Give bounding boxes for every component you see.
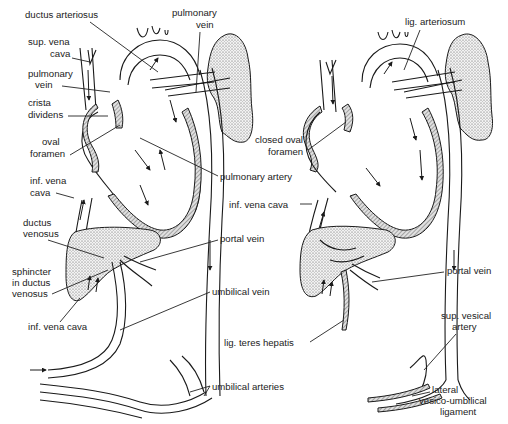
label-oval-foramen: oval [42, 136, 60, 147]
label-oval-foramen: foramen [30, 148, 65, 159]
circulation-diagram: ductus arteriosus pulmonary vein sup. ve… [0, 0, 508, 424]
heart-wall-right [83, 104, 99, 172]
label-ductus-arteriosus: ductus arteriosus [25, 9, 98, 20]
label-lig-teres-hepatis: lig. teres hepatis [224, 337, 294, 348]
label-sup-vena-cava: cava [50, 48, 71, 59]
label-ductus-venosus: venosus [23, 228, 59, 239]
label-inf-vena-cava: inf. vena [30, 175, 67, 186]
label-sup-vesical-artery: artery [452, 321, 477, 332]
label-closed-oval-foramen: closed oval [255, 134, 303, 145]
label-umbilical-arteries: umbilical arteries [212, 381, 284, 392]
label-pulmonary-vein: pulmonary [28, 68, 73, 79]
label-lateral-ligament: ligament [440, 406, 477, 417]
adult-circulation-panel [300, 30, 493, 412]
label-umbilical-vein: umbilical vein [212, 286, 270, 297]
label-pulmonary-vein: vein [35, 79, 53, 90]
lung-shape-adult [445, 34, 492, 140]
label-sphincter: sphincter [12, 266, 52, 277]
labels: ductus arteriosus pulmonary vein sup. ve… [12, 7, 491, 417]
fetal-circulation-panel [30, 26, 253, 418]
septum-adult [342, 104, 353, 132]
label-portal-vein: portal vein [220, 233, 264, 244]
label-sup-vena-cava: sup. vena [28, 36, 70, 47]
label-crista-dividens: crista [28, 97, 52, 108]
label-ductus-venosus: ductus [23, 217, 51, 228]
label-pulmonary-vein-top: pulmonary [172, 7, 217, 18]
label-lig-arteriosum: lig. arteriosum [405, 16, 465, 27]
label-lateral-ligament: vesico-umbilical [419, 395, 487, 406]
label-closed-oval-foramen: foramen [268, 146, 303, 157]
label-sup-vesical-artery: sup. vesical [441, 310, 491, 321]
label-inf-vena-cava: cava [30, 187, 51, 198]
label-crista-dividens: dividens [28, 109, 63, 120]
label-sphincter: in ductus [12, 277, 51, 288]
label-pulmonary-vein-top: vein [196, 19, 214, 30]
label-portal-vein-adult: portal vein [447, 265, 491, 276]
label-lateral-ligament: lateral [432, 384, 458, 395]
label-inf-vena-cava-lower: inf. vena cava [28, 321, 88, 332]
label-inf-vena-cava-adult: inf. vena cava [229, 199, 289, 210]
septum [112, 100, 123, 128]
label-pulmonary-artery: pulmonary artery [220, 171, 292, 182]
heart-wall-left-adult [350, 108, 443, 238]
liver-shape [66, 227, 160, 300]
label-sphincter: venosus [12, 288, 48, 299]
